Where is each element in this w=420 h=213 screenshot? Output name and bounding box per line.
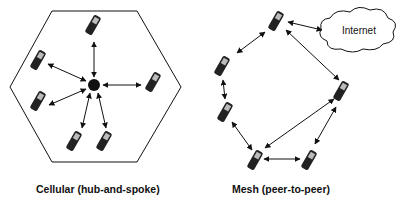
- phone-icon: [333, 80, 350, 101]
- phone-icon: [30, 90, 47, 111]
- phone-icon: [85, 14, 102, 35]
- phone-icon: [145, 71, 162, 92]
- phone-icon: [30, 49, 47, 70]
- phone-icon: [66, 130, 83, 151]
- phone-icon: [217, 101, 234, 122]
- phone-icon: [268, 10, 285, 31]
- mesh-caption: Mesh (peer-to-peer): [232, 183, 330, 195]
- phone-icon: [214, 55, 231, 76]
- phone-icon: [301, 149, 318, 170]
- cellular-diagram: [10, 11, 181, 162]
- phone-icon: [247, 149, 264, 170]
- peer-links: [223, 22, 339, 159]
- internet-label: Internet: [342, 25, 376, 36]
- phone-icon: [96, 130, 113, 151]
- cellular-caption: Cellular (hub-and-spoke): [36, 183, 160, 195]
- hub-base-station: [88, 79, 100, 91]
